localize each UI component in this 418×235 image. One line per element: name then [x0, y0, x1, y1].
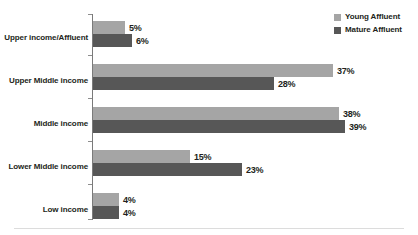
bar-row-mature-4: 4% — [93, 206, 392, 219]
bar-group-4: 4% 4% — [93, 193, 392, 219]
bar-group-0: 5% 6% — [93, 21, 392, 47]
bar-mature-3[interactable] — [93, 163, 242, 176]
bar-value-young-2: 38% — [343, 109, 360, 119]
axis-tick-0 — [88, 14, 92, 15]
bar-row-mature-3: 23% — [93, 163, 392, 176]
bar-young-3[interactable] — [93, 150, 190, 163]
bar-value-mature-0: 6% — [136, 36, 149, 46]
plot-area: 5% 6% 37% 28% 38% — [92, 14, 392, 220]
axis-tick-2 — [88, 98, 92, 99]
axis-tick-4 — [88, 184, 92, 185]
bar-row-young-3: 15% — [93, 150, 392, 163]
bar-row-mature-2: 39% — [93, 120, 392, 133]
axis-tick-5 — [88, 219, 92, 220]
bar-value-mature-1: 28% — [278, 79, 295, 89]
bar-value-young-0: 5% — [129, 23, 142, 33]
bar-row-mature-0: 6% — [93, 34, 392, 47]
bar-value-young-3: 15% — [194, 152, 211, 162]
bar-mature-0[interactable] — [93, 34, 132, 47]
bar-group-1: 37% 28% — [93, 64, 392, 90]
bar-row-mature-1: 28% — [93, 77, 392, 90]
axis-tick-1 — [88, 55, 92, 56]
bar-young-0[interactable] — [93, 21, 125, 34]
bar-group-3: 15% 23% — [93, 150, 392, 176]
bar-mature-4[interactable] — [93, 206, 119, 219]
bar-row-young-0: 5% — [93, 21, 392, 34]
bar-value-young-4: 4% — [123, 195, 136, 205]
bar-value-mature-3: 23% — [246, 165, 263, 175]
category-axis-labels: Upper income/Affluent Upper Middle incom… — [0, 14, 88, 220]
bar-chart: Young Affluent Mature Affluent Upper inc… — [0, 0, 418, 235]
footer-divider — [14, 228, 404, 229]
category-label-4: Low income — [43, 206, 88, 214]
bar-row-young-4: 4% — [93, 193, 392, 206]
bar-group-2: 38% 39% — [93, 107, 392, 133]
bar-mature-2[interactable] — [93, 120, 345, 133]
category-label-2: Middle income — [34, 120, 88, 128]
bar-value-young-1: 37% — [337, 66, 354, 76]
category-label-0: Upper income/Affluent — [4, 34, 88, 42]
bar-row-young-1: 37% — [93, 64, 392, 77]
bar-row-young-2: 38% — [93, 107, 392, 120]
bar-value-mature-2: 39% — [349, 122, 366, 132]
axis-tick-3 — [88, 141, 92, 142]
bar-young-1[interactable] — [93, 64, 333, 77]
category-label-3: Lower Middle income — [9, 163, 88, 171]
bar-value-mature-4: 4% — [123, 208, 136, 218]
bar-mature-1[interactable] — [93, 77, 274, 90]
bar-young-2[interactable] — [93, 107, 339, 120]
category-label-1: Upper Middle income — [9, 77, 88, 85]
bar-young-4[interactable] — [93, 193, 119, 206]
